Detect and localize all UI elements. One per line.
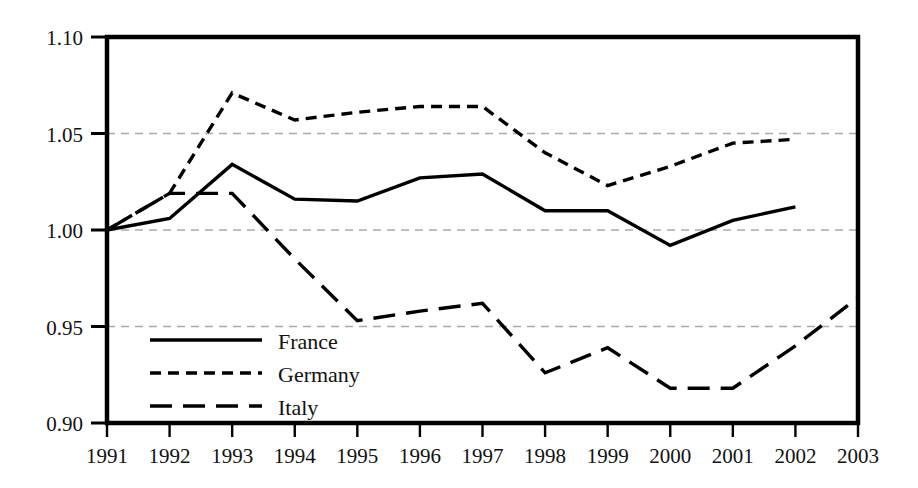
x-tick-label: 1996 xyxy=(399,444,441,468)
y-tick-label: 0.95 xyxy=(46,316,83,340)
x-tick-label: 1994 xyxy=(274,444,317,468)
x-tick-label: 2000 xyxy=(649,444,691,468)
y-tick-label: 1.10 xyxy=(46,26,83,50)
x-tick-label: 1997 xyxy=(462,444,504,468)
legend-label-italy: Italy xyxy=(278,395,318,420)
x-tick-label: 1993 xyxy=(211,444,253,468)
legend-label-germany: Germany xyxy=(278,362,360,387)
x-tick-label: 1991 xyxy=(86,444,128,468)
x-tick-label: 1995 xyxy=(336,444,378,468)
chart-container: 0.900.951.001.051.10 1991199219931994199… xyxy=(0,0,918,488)
x-tick-label: 2003 xyxy=(837,444,879,468)
x-tick-label: 1998 xyxy=(524,444,566,468)
y-tick-label: 1.00 xyxy=(46,219,83,243)
legend-label-france: France xyxy=(278,329,338,354)
y-tick-label: 1.05 xyxy=(46,123,83,147)
chart-background xyxy=(0,0,918,488)
x-tick-label: 1999 xyxy=(587,444,629,468)
x-tick-label: 2001 xyxy=(712,444,754,468)
x-tick-label: 2002 xyxy=(774,444,816,468)
y-tick-label: 0.90 xyxy=(46,412,83,436)
line-chart: 0.900.951.001.051.10 1991199219931994199… xyxy=(0,0,918,488)
x-tick-label: 1992 xyxy=(149,444,191,468)
